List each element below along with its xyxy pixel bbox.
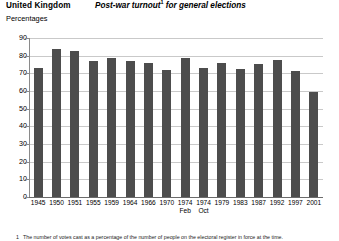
bar xyxy=(181,58,190,197)
bar xyxy=(236,69,245,197)
y-axis-tick-mark xyxy=(25,38,29,39)
bar xyxy=(217,63,226,197)
y-axis-tick-mark xyxy=(25,73,29,74)
bar xyxy=(52,49,61,197)
y-axis-tick-label: 30 xyxy=(5,140,27,147)
y-axis-tick-label: 50 xyxy=(5,105,27,112)
y-axis-tick-mark xyxy=(25,162,29,163)
x-axis-labels: 194519501951195519591964196619701974Feb1… xyxy=(0,199,339,223)
chart-plot: 0102030405060708090 19451950195119551959… xyxy=(0,0,339,241)
bar xyxy=(291,71,300,197)
x-axis-tick-label: 2001 xyxy=(294,199,334,207)
bar xyxy=(107,58,116,197)
y-axis-tick-mark xyxy=(25,179,29,180)
y-axis-tick-mark xyxy=(25,109,29,110)
bar xyxy=(144,63,153,197)
x-axis-tick-month: Oct xyxy=(184,207,224,215)
bar xyxy=(162,70,171,197)
footnote: 1The number of votes cast as a percentag… xyxy=(16,234,336,240)
y-axis-tick-label: 70 xyxy=(5,69,27,76)
bar xyxy=(309,92,318,197)
bar xyxy=(199,68,208,197)
bar xyxy=(34,68,43,197)
bar xyxy=(254,64,263,197)
y-axis-tick-mark xyxy=(25,56,29,57)
y-axis-tick-mark xyxy=(25,126,29,127)
y-axis-tick-label: 80 xyxy=(5,52,27,59)
y-axis-tick-mark xyxy=(25,91,29,92)
bars-layer xyxy=(29,38,323,197)
bar xyxy=(89,61,98,197)
footnote-marker: 1 xyxy=(16,234,23,240)
y-axis-tick-label: 60 xyxy=(5,87,27,94)
y-axis-tick-label: 40 xyxy=(5,122,27,129)
bar xyxy=(273,60,282,197)
y-axis-tick-mark xyxy=(25,144,29,145)
y-axis-tick-label: 20 xyxy=(5,158,27,165)
y-axis-tick-label: 90 xyxy=(5,34,27,41)
footnote-text: The number of votes cast as a percentage… xyxy=(23,234,283,240)
bar xyxy=(126,61,135,197)
y-axis-tick-label: 10 xyxy=(5,175,27,182)
x-axis-tick-year: 2001 xyxy=(306,199,321,206)
y-axis-tick-mark xyxy=(25,197,29,198)
bar xyxy=(70,51,79,197)
x-axis-line xyxy=(29,197,323,198)
